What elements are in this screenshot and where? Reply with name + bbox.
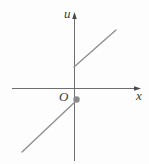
lower-branch-segment: [22, 100, 77, 152]
u-axis-arrow-icon: [72, 12, 77, 19]
upper-branch-segment: [74, 30, 116, 67]
endpoint-dot-marker: [73, 96, 79, 102]
u-axis-label: u: [64, 7, 71, 20]
graph-figure: u x O: [0, 0, 149, 164]
origin-label: O: [59, 90, 68, 103]
x-axis-label: x: [136, 89, 142, 102]
plot-canvas: [0, 0, 149, 164]
